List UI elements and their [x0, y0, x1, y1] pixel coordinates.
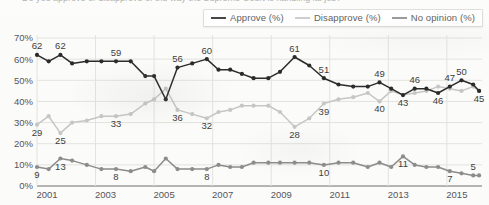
data-point-label: 46 — [409, 74, 420, 85]
data-point — [266, 161, 270, 165]
data-point — [47, 167, 51, 171]
data-point — [424, 87, 428, 91]
chart-plot-area: 0%10%20%30%40%50%60%70%20012003200520072… — [0, 0, 489, 205]
data-point — [175, 66, 179, 70]
data-point-label: 5 — [471, 161, 476, 172]
data-point — [413, 91, 417, 95]
data-point-label: 46 — [433, 95, 444, 106]
legend-item-approve[interactable]: Approve (%) — [211, 12, 284, 23]
legend-swatch-no-opinion — [392, 17, 407, 19]
data-point — [336, 82, 340, 86]
data-point — [413, 87, 417, 91]
data-point — [216, 110, 220, 114]
y-axis-tick-label: 40% — [14, 96, 34, 107]
data-point — [240, 104, 244, 108]
data-point — [266, 76, 270, 80]
data-point — [190, 167, 194, 171]
data-point-label: 62 — [55, 40, 66, 51]
data-point — [152, 169, 156, 173]
data-point — [307, 116, 311, 120]
data-point — [35, 53, 39, 57]
y-axis-tick-label: 30% — [14, 117, 34, 128]
data-point-label: 13 — [55, 161, 66, 172]
x-axis-tick-label: 2015 — [446, 189, 467, 200]
data-point — [477, 173, 481, 177]
data-point — [377, 80, 381, 84]
data-point — [389, 165, 393, 169]
data-point-label: 39 — [319, 106, 330, 117]
x-axis-tick-label: 2009 — [271, 189, 292, 200]
data-point — [129, 59, 133, 63]
data-point — [459, 78, 463, 82]
series-no-opinion — [35, 154, 481, 177]
legend-item-disapprove[interactable]: Disapprove (%) — [295, 12, 381, 23]
data-point — [85, 163, 89, 167]
x-axis-tick-label: 2003 — [95, 189, 116, 200]
data-point — [377, 161, 381, 165]
data-point — [252, 161, 256, 165]
data-point-label: 8 — [204, 171, 209, 182]
data-point — [99, 59, 103, 63]
data-point — [436, 165, 440, 169]
data-point — [240, 165, 244, 169]
data-point — [351, 85, 355, 89]
data-point — [228, 68, 232, 72]
data-point — [99, 167, 103, 171]
data-point — [252, 104, 256, 108]
y-axis-tick-label: 20% — [14, 138, 34, 149]
data-point — [143, 74, 147, 78]
data-point — [278, 161, 282, 165]
series-disapprove — [35, 85, 481, 136]
data-point — [99, 114, 103, 118]
data-point — [336, 97, 340, 101]
data-point — [70, 61, 74, 65]
data-point — [114, 59, 118, 63]
data-point — [448, 85, 452, 89]
x-axis-tick-label: 2001 — [36, 189, 57, 200]
data-point — [175, 167, 179, 171]
data-point — [143, 165, 147, 169]
y-axis-tick-label: 10% — [14, 159, 34, 170]
chart-legend: Approve (%) Disapprove (%) No opinion (%… — [203, 9, 483, 27]
y-axis-tick-label: 0% — [19, 180, 33, 191]
x-axis-tick-label: 2005 — [154, 189, 175, 200]
data-point — [293, 55, 297, 59]
legend-swatch-approve — [211, 17, 226, 19]
data-point — [459, 171, 463, 175]
data-point-label: 59 — [111, 47, 122, 58]
data-point — [471, 173, 475, 177]
data-point — [471, 82, 475, 86]
data-point — [85, 59, 89, 63]
data-point — [129, 169, 133, 173]
data-point-label: 10 — [319, 167, 330, 178]
data-point — [228, 165, 232, 169]
data-point-label: 32 — [202, 120, 213, 131]
data-point — [459, 89, 463, 93]
data-point-label: 51 — [319, 64, 330, 75]
data-point-label: 7 — [447, 173, 452, 184]
data-point — [164, 87, 168, 91]
legend-item-no-opinion[interactable]: No opinion (%) — [392, 12, 475, 23]
data-point-label: 8 — [113, 171, 118, 182]
legend-swatch-disapprove — [295, 17, 310, 19]
data-point-label: 62 — [32, 40, 43, 51]
data-point-label: 11 — [398, 158, 408, 169]
legend-label-disapprove: Disapprove (%) — [314, 12, 381, 23]
data-point-label: 47 — [445, 72, 456, 83]
data-point — [164, 97, 168, 101]
series-line — [37, 156, 479, 175]
legend-label-approve: Approve (%) — [230, 12, 284, 23]
data-point-label: 28 — [289, 129, 300, 140]
data-point-label: 61 — [289, 43, 300, 54]
data-point — [307, 161, 311, 165]
data-point — [351, 95, 355, 99]
data-point — [129, 112, 133, 116]
data-point — [205, 57, 209, 61]
data-point-label: 36 — [172, 112, 183, 123]
data-point — [413, 163, 417, 167]
data-point — [266, 104, 270, 108]
data-point-label: 29 — [32, 127, 43, 138]
data-point — [47, 114, 51, 118]
data-point — [143, 101, 147, 105]
data-point-label: 49 — [374, 68, 385, 79]
